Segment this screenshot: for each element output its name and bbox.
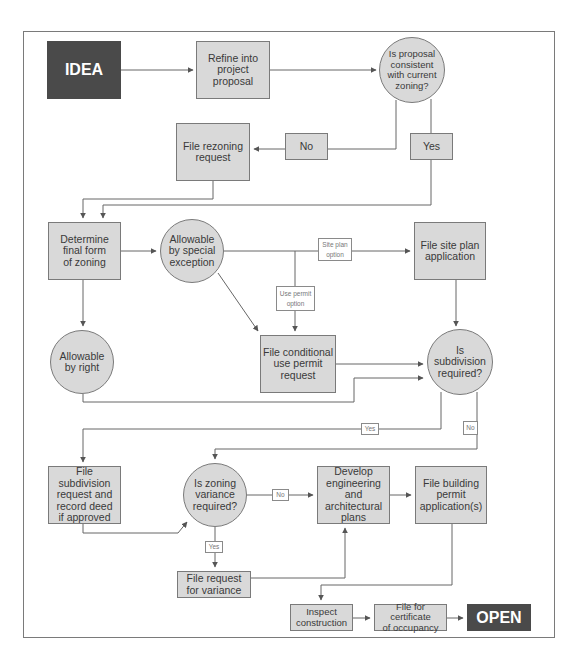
variance-no-label: No xyxy=(272,489,289,501)
subdivision-no-label: No xyxy=(463,421,478,435)
consistent-zoning-decision: Is proposal consistent with current zoni… xyxy=(379,37,445,103)
yes-branch-label: Yes xyxy=(410,133,453,160)
idea-terminal: IDEA xyxy=(47,41,121,99)
site-plan-option-label: Site plan option xyxy=(318,238,352,261)
building-permit-step: File building permit application(s) xyxy=(415,466,487,524)
special-exception-decision: Allowable by special exception xyxy=(160,219,224,283)
no-branch-label: No xyxy=(285,133,328,160)
subdivision-request-step: File subdivision request and record deed… xyxy=(48,466,121,524)
site-plan-application-step: File site plan application xyxy=(414,222,486,280)
idea-label: IDEA xyxy=(65,64,103,76)
conditional-use-permit-step: File conditional use permit request xyxy=(260,335,336,393)
subdivision-yes-label: Yes xyxy=(361,423,379,435)
variance-yes-label: Yes xyxy=(205,541,223,553)
refine-proposal-step: Refine into project proposal xyxy=(196,41,270,99)
subdivision-required-decision: Is subdivision required? xyxy=(427,329,493,395)
use-permit-option-label: Use permit option xyxy=(276,286,315,311)
zoning-variance-decision: Is zoning variance required? xyxy=(183,463,247,527)
open-label: OPEN xyxy=(476,612,521,624)
inspect-construction-step: Inspect construction xyxy=(290,604,353,631)
open-terminal: OPEN xyxy=(467,604,531,631)
develop-plans-step: Develop engineering and architectural pl… xyxy=(317,466,390,524)
zoning-process-flowchart: IDEA Refine into project proposal Is pro… xyxy=(0,0,567,657)
determine-zoning-step: Determine final form of zoning xyxy=(48,222,121,280)
file-rezoning-step: File rezoning request xyxy=(176,123,250,181)
certificate-occupancy-step: File for certificate of occupancy xyxy=(374,604,447,631)
allowable-by-right-node: Allowable by right xyxy=(50,330,114,394)
variance-request-step: File request for variance xyxy=(177,571,251,598)
